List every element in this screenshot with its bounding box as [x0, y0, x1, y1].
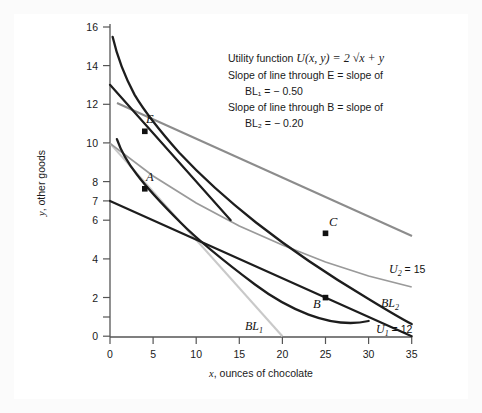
annotation-line-5: BL₂ = − 0.20 — [245, 117, 304, 129]
curve-label-u2-value: = 15 — [402, 263, 426, 275]
y-tick-8: 8 — [92, 176, 98, 188]
y-tick-4: 4 — [92, 253, 98, 265]
tangent-line-through-e — [110, 85, 231, 220]
x-tick-5: 5 — [150, 348, 156, 360]
x-axis-title: x, ounces of chocolate — [208, 367, 313, 379]
y-tick-10: 10 — [86, 137, 98, 149]
line-label-bl2-subscript: 2 — [395, 303, 399, 312]
y-tick-14: 14 — [86, 60, 98, 72]
x-axis-tick-labels: 0 5 10 15 20 25 30 35 — [107, 348, 418, 360]
point-marker-e — [142, 129, 148, 135]
chart-plot-area: 16 14 12 10 8 7 6 4 2 0 — [0, 0, 482, 413]
x-tick-0: 0 — [107, 348, 113, 360]
annotation-line-1-prefix: Utility function — [228, 52, 296, 64]
y-axis-title-text: , other goods — [35, 150, 47, 211]
point-marker-c — [323, 231, 329, 237]
budget-line-bl2 — [110, 201, 412, 336]
line-label-bl2: BL2 — [381, 296, 399, 312]
data-points — [142, 129, 328, 301]
figure-page: 16 14 12 10 8 7 6 4 2 0 — [0, 0, 482, 413]
curve-label-u1-value: = 12 — [389, 323, 413, 335]
indifference-curve-u1-main — [117, 139, 369, 323]
y-axis-title: y, other goods — [35, 150, 47, 217]
y-tick-2: 2 — [92, 292, 98, 304]
point-label-b: B — [313, 297, 321, 311]
line-label-bl1: BL1 — [245, 319, 263, 335]
curve-label-u1: U1 = 12 — [376, 322, 412, 338]
x-tick-15: 15 — [233, 348, 245, 360]
economics-indifference-chart: 16 14 12 10 8 7 6 4 2 0 — [0, 0, 482, 413]
point-label-a: A — [145, 170, 154, 184]
x-tick-25: 25 — [320, 348, 332, 360]
point-label-c: C — [329, 215, 338, 229]
x-axis-ticks — [110, 337, 412, 344]
y-tick-7: 7 — [92, 195, 98, 207]
point-label-e: E — [145, 112, 154, 126]
y-tick-6: 6 — [92, 214, 98, 226]
point-marker-b — [323, 295, 329, 301]
y-tick-0: 0 — [92, 330, 98, 342]
x-tick-30: 30 — [363, 348, 375, 360]
y-tick-12: 12 — [86, 98, 98, 110]
line-label-bl2-symbol: BL — [381, 296, 395, 310]
y-axis-tick-labels: 16 14 12 10 8 7 6 4 2 0 — [86, 21, 98, 342]
x-tick-20: 20 — [277, 348, 289, 360]
annotation-block: Utility function U(x, y) = 2 √x + y Slop… — [228, 51, 385, 129]
annotation-line-1-formula: U(x, y) = 2 √x + y — [296, 51, 384, 65]
annotation-line-2: Slope of line through E = slope of — [228, 69, 383, 81]
x-tick-35: 35 — [406, 348, 418, 360]
y-axis-ticks — [103, 27, 110, 336]
annotation-line-3: BL₁ = − 0.50 — [245, 85, 303, 97]
curve-label-u2: U2 = 15 — [389, 262, 425, 278]
y-tick-16: 16 — [86, 21, 98, 33]
line-label-bl1-symbol: BL — [245, 319, 259, 333]
x-axis-title-text: , ounces of chocolate — [214, 367, 313, 379]
x-tick-10: 10 — [190, 348, 202, 360]
annotation-line-4: Slope of line through B = slope of — [228, 101, 383, 113]
annotation-line-1: Utility function U(x, y) = 2 √x + y — [228, 51, 385, 65]
line-label-bl1-subscript: 1 — [259, 326, 263, 335]
point-marker-a — [142, 186, 148, 192]
